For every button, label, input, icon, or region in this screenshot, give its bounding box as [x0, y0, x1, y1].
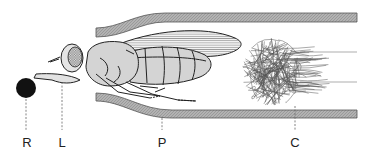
fly-eye [68, 47, 82, 67]
tube-upper-wall [96, 13, 357, 37]
cotton-fiber [280, 84, 329, 86]
cotton-fiber [287, 79, 327, 81]
fly-antenna [48, 57, 60, 62]
tube-lower-wall [96, 93, 357, 118]
fly-abdomen [130, 47, 211, 84]
label-r: R [22, 135, 31, 150]
cotton-fiber [281, 47, 315, 49]
fly-proboscis [34, 74, 80, 83]
fly-in-tube-diagram: R L P C [0, 0, 374, 154]
label-c: C [290, 135, 299, 150]
label-l: L [58, 135, 65, 150]
label-p: P [158, 135, 167, 150]
ball-r [16, 78, 36, 98]
cotton-fiber [288, 87, 314, 89]
cotton-fiber [290, 90, 322, 91]
cotton-plug [243, 38, 357, 105]
fly-thorax [86, 41, 138, 86]
